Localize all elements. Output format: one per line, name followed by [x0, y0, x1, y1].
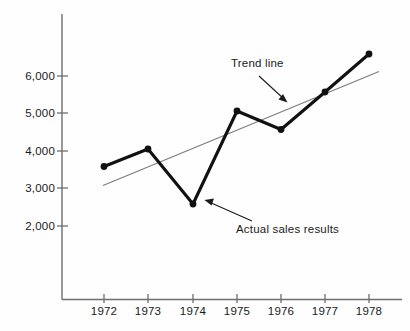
x-tick-label-1975: 1975 [224, 305, 250, 317]
y-tick-label-5000: 5,000 [10, 107, 55, 119]
x-tick-label-1976: 1976 [268, 305, 294, 317]
trend-line [103, 72, 379, 186]
data-point-1974 [190, 201, 197, 208]
y-tick-label-6000: 6,000 [10, 70, 55, 82]
actual-sales-line [104, 54, 369, 204]
trend-line-annotation-arrow [259, 76, 288, 103]
data-point-1976 [278, 126, 285, 133]
data-point-1973 [145, 146, 152, 153]
y-tick-label-4000: 4,000 [10, 145, 55, 157]
x-tick-label-1977: 1977 [312, 305, 338, 317]
data-point-1972 [101, 163, 108, 170]
chart-canvas [0, 0, 410, 331]
data-point-markers [101, 51, 373, 208]
actual-sales-annotation-label: Actual sales results [236, 223, 339, 235]
actual-sales-annotation-arrow [205, 199, 253, 222]
y-tick-label-3000: 3,000 [10, 182, 55, 194]
x-tick-label-1973: 1973 [135, 305, 161, 317]
actual-sales-arrowhead [205, 199, 215, 206]
x-axis-ticks [104, 294, 369, 303]
x-tick-label-1972: 1972 [91, 305, 117, 317]
data-point-1978 [366, 51, 373, 58]
data-point-1975 [234, 108, 241, 115]
x-tick-label-1978: 1978 [356, 305, 382, 317]
trend-line-annotation-label: Trend line [231, 57, 284, 69]
sales-trend-chart: 6,000 5,000 4,000 3,000 2,000 1972 1973 … [0, 0, 410, 331]
data-point-1977 [322, 89, 329, 96]
y-tick-label-2000: 2,000 [10, 220, 55, 232]
x-tick-label-1974: 1974 [180, 305, 206, 317]
